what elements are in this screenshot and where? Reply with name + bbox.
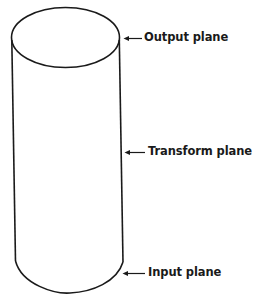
- input-arrow-icon: [123, 271, 146, 276]
- output-arrow-icon: [124, 36, 143, 41]
- cylinder-left-side: [12, 40, 16, 261]
- output-plane-ellipse: [12, 8, 120, 68]
- input-plane-label: Input plane: [148, 265, 221, 279]
- cylinder-right-side: [119, 40, 123, 262]
- input-plane-arc: [16, 261, 124, 293]
- transform-plane-label: Transform plane: [148, 144, 252, 158]
- output-plane-label: Output plane: [144, 30, 228, 44]
- transform-arrow-icon: [125, 150, 146, 155]
